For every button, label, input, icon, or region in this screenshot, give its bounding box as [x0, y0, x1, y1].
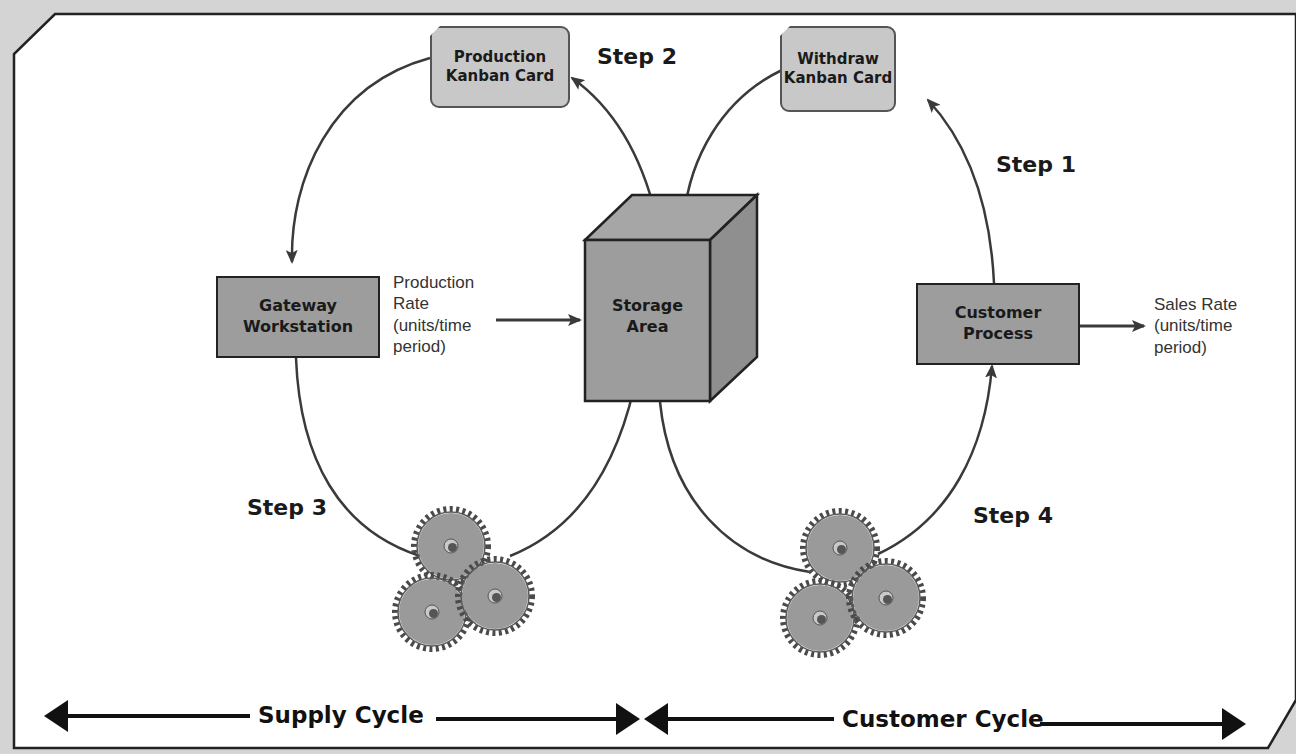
production-card-line2: Kanban Card [446, 67, 554, 87]
production-rate-line3: (units/time [393, 315, 474, 336]
storage-line2: Area [585, 317, 710, 338]
withdraw-kanban-card: Withdraw Kanban Card [780, 26, 896, 112]
step-2-label: Step 2 [597, 44, 677, 69]
withdraw-card-line2: Kanban Card [784, 69, 892, 89]
sales-rate-line1: Sales Rate [1154, 294, 1237, 315]
sales-rate-line2: (units/time [1154, 315, 1237, 336]
gateway-workstation-box: Gateway Workstation [216, 276, 380, 358]
production-kanban-card: Production Kanban Card [430, 26, 570, 108]
step-3-label: Step 3 [247, 495, 327, 520]
sales-rate-label: Sales Rate (units/time period) [1154, 294, 1237, 358]
customer-process-box: Customer Process [916, 283, 1080, 365]
supply-cycle-label: Supply Cycle [258, 702, 424, 728]
customer-cycle-label: Customer Cycle [842, 706, 1044, 732]
gateway-line1: Gateway [243, 296, 353, 317]
diagram-graphics [0, 0, 1296, 754]
kanban-diagram: Production Kanban Card Withdraw Kanban C… [0, 0, 1296, 754]
sales-rate-line3: period) [1154, 337, 1237, 358]
storage-area-label: Storage Area [585, 296, 710, 338]
production-rate-line2: Rate [393, 293, 474, 314]
step-4-label: Step 4 [973, 503, 1053, 528]
storage-line1: Storage [585, 296, 710, 317]
production-rate-line1: Production [393, 272, 474, 293]
production-card-line1: Production [446, 48, 554, 68]
customer-line1: Customer [955, 303, 1042, 324]
production-rate-line4: period) [393, 336, 474, 357]
production-rate-label: Production Rate (units/time period) [393, 272, 474, 357]
step-1-label: Step 1 [996, 152, 1076, 177]
gateway-line2: Workstation [243, 317, 353, 338]
customer-line2: Process [955, 324, 1042, 345]
withdraw-card-line1: Withdraw [784, 50, 892, 70]
